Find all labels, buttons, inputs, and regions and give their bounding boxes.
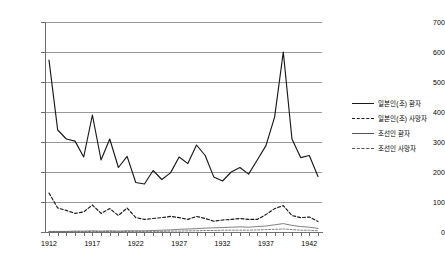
x-axis-tick: [144, 232, 145, 236]
y-axis-tick: [41, 22, 45, 23]
y-axis-tick: [41, 202, 45, 203]
legend-swatch-icon: [352, 100, 374, 108]
y-axis-tick-label: 200: [405, 169, 445, 176]
x-axis-tick: [231, 232, 232, 236]
x-axis-tick: [92, 232, 93, 236]
series-line-1: [49, 193, 318, 222]
x-axis-tick: [214, 232, 215, 236]
y-axis-tick-label: 0: [405, 229, 445, 236]
x-axis-tick: [188, 232, 189, 236]
x-axis-tick-label: 1937: [251, 240, 281, 247]
y-axis-tick-label: 700: [405, 19, 445, 26]
legend-label: 조선인 사망자: [378, 145, 417, 153]
legend-swatch-icon: [352, 145, 374, 153]
y-axis-tick: [41, 82, 45, 83]
y-axis-tick-label: 300: [405, 139, 445, 146]
x-axis-tick: [58, 232, 59, 236]
y-axis-tick: [41, 112, 45, 113]
x-axis-tick: [75, 232, 76, 236]
x-axis-tick: [301, 232, 302, 236]
x-axis-tick-label: 1922: [121, 240, 151, 247]
x-axis-tick: [292, 232, 293, 236]
x-axis-tick: [170, 232, 171, 236]
y-axis-tick: [41, 232, 45, 233]
x-axis-tick: [257, 232, 258, 236]
x-axis-tick-label: 1942: [294, 240, 324, 247]
x-axis-tick: [153, 232, 154, 236]
x-axis-tick: [101, 232, 102, 236]
x-axis-tick: [223, 232, 224, 236]
legend-label: 일본인(조) 환자: [378, 100, 421, 108]
x-axis-tick: [84, 232, 85, 236]
y-axis-tick: [41, 142, 45, 143]
y-axis-tick-label: 400: [405, 109, 445, 116]
x-axis-tick: [118, 232, 119, 236]
x-axis-tick: [179, 232, 180, 236]
x-axis-tick-label: 1927: [164, 240, 194, 247]
series-layer: [45, 22, 322, 233]
x-axis-tick: [162, 232, 163, 236]
x-axis-tick: [205, 232, 206, 236]
x-axis-tick: [136, 232, 137, 236]
chart-container: 일본인(조) 환자일본인(조) 사망자조선인 환자조선인 사망자 0100200…: [0, 0, 445, 273]
x-axis-tick: [318, 232, 319, 236]
legend-swatch-icon: [352, 115, 374, 123]
y-axis-tick-label: 600: [405, 49, 445, 56]
legend-label: 조선인 환자: [378, 130, 410, 138]
y-axis-tick: [41, 52, 45, 53]
x-axis-tick-label: 1932: [208, 240, 238, 247]
x-axis-tick: [49, 232, 50, 236]
chart-legend: 일본인(조) 환자일본인(조) 사망자조선인 환자조선인 사망자: [352, 96, 444, 156]
x-axis-tick: [127, 232, 128, 236]
x-axis-tick: [110, 232, 111, 236]
y-axis-tick-label: 500: [405, 79, 445, 86]
series-line-0: [49, 52, 318, 184]
x-axis-tick-label: 1917: [77, 240, 107, 247]
x-axis-tick: [283, 232, 284, 236]
legend-swatch-icon: [352, 130, 374, 138]
series-line-2: [49, 224, 318, 232]
x-axis-tick: [240, 232, 241, 236]
x-axis-tick: [275, 232, 276, 236]
x-axis-tick: [249, 232, 250, 236]
x-axis-tick: [197, 232, 198, 236]
x-axis-tick-label: 1912: [34, 240, 64, 247]
x-axis-tick: [266, 232, 267, 236]
legend-label: 일본인(조) 사망자: [378, 115, 427, 123]
y-axis-tick: [41, 172, 45, 173]
x-axis-tick: [66, 232, 67, 236]
x-axis-tick: [309, 232, 310, 236]
y-axis-tick-label: 100: [405, 199, 445, 206]
